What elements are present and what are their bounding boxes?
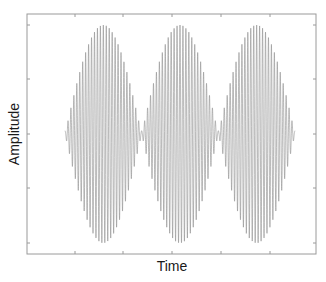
plot-area: [0, 0, 326, 282]
signal-line: [65, 25, 295, 243]
x-axis-label: Time: [0, 258, 326, 274]
chart-figure: Time Amplitude: [0, 0, 326, 282]
y-axis-label: Amplitude: [6, 103, 22, 165]
